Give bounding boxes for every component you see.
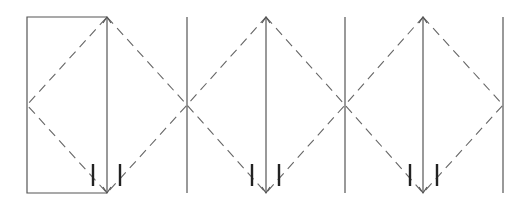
fold-diagram — [0, 0, 526, 209]
background — [0, 0, 526, 209]
